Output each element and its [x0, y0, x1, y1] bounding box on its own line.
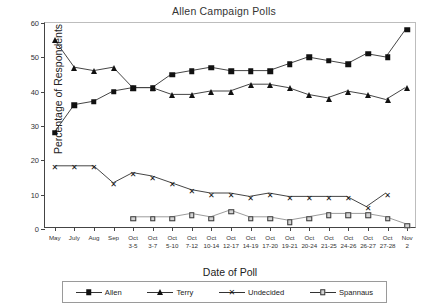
data-point-allen: [189, 68, 195, 74]
data-point-terry: [287, 85, 293, 91]
data-point-allen: [91, 99, 97, 105]
data-point-undecided: ✕: [208, 191, 215, 198]
data-point-allen: [365, 51, 371, 57]
y-tick-mark: [41, 229, 45, 230]
x-tick-mark: [329, 227, 330, 231]
y-tick-label: 60: [31, 19, 39, 28]
data-point-undecided: ✕: [384, 191, 391, 198]
data-point-spannaus: [248, 216, 254, 222]
data-point-terry: [52, 37, 58, 43]
data-point-allen: [267, 68, 273, 74]
data-point-terry: [71, 65, 77, 71]
data-point-undecided: ✕: [188, 188, 195, 195]
data-point-undecided: ✕: [247, 195, 254, 202]
data-point-spannaus: [346, 213, 352, 219]
y-tick-label: 30: [31, 122, 39, 131]
data-point-undecided: ✕: [228, 191, 235, 198]
y-tick-label: 50: [31, 53, 39, 62]
x-tick-mark: [388, 227, 389, 231]
data-point-undecided: ✕: [90, 164, 97, 171]
series-line-allen: [55, 30, 406, 132]
data-point-spannaus: [385, 216, 391, 222]
y-tick-label: 10: [31, 190, 39, 199]
data-point-spannaus: [365, 213, 371, 219]
y-tick-label: 20: [31, 156, 39, 165]
data-point-terry: [150, 85, 156, 91]
data-point-terry: [169, 92, 175, 98]
x-tick-mark: [290, 227, 291, 231]
data-point-undecided: ✕: [345, 195, 352, 202]
data-point-terry: [326, 96, 332, 102]
data-point-spannaus: [150, 216, 156, 222]
data-point-terry: [404, 85, 410, 91]
legend-label: Spannaus: [339, 288, 373, 297]
data-point-undecided: ✕: [71, 164, 78, 171]
legend-marker-filled-triangle-icon: [147, 287, 173, 297]
data-point-terry: [208, 89, 214, 95]
legend-item-terry[interactable]: Terry: [147, 287, 193, 297]
data-point-allen: [72, 103, 78, 109]
data-point-terry: [228, 89, 234, 95]
data-point-terry: [130, 85, 136, 91]
data-point-terry: [385, 97, 391, 103]
y-tick-label: 40: [31, 87, 39, 96]
data-point-allen: [228, 68, 234, 74]
data-point-terry: [111, 65, 117, 71]
data-point-terry: [365, 92, 371, 98]
data-point-undecided: ✕: [286, 195, 293, 202]
x-tick-mark: [211, 227, 212, 231]
data-point-spannaus: [267, 216, 273, 222]
data-point-terry: [306, 92, 312, 98]
chart-container: Allen Campaign Polls Percentage of Respo…: [0, 0, 448, 308]
legend-item-undecided[interactable]: ✕Undecided: [219, 287, 284, 297]
legend-item-allen[interactable]: Allen: [76, 287, 122, 297]
data-point-spannaus: [404, 223, 410, 229]
data-point-spannaus: [228, 209, 234, 215]
data-point-undecided: ✕: [110, 181, 117, 188]
data-point-allen: [326, 58, 332, 64]
data-point-undecided: ✕: [130, 171, 137, 178]
data-point-undecided: ✕: [306, 195, 313, 202]
data-point-spannaus: [287, 219, 293, 225]
data-point-allen: [346, 61, 352, 67]
legend-marker-filled-square-icon: [76, 287, 102, 297]
x-tick-mark: [192, 227, 193, 231]
data-point-allen: [287, 61, 293, 67]
data-point-allen: [307, 55, 313, 61]
data-point-undecided: ✕: [149, 174, 156, 181]
x-tick-mark: [231, 227, 232, 231]
legend-label: Terry: [176, 288, 193, 297]
legend-item-spannaus[interactable]: Spannaus: [310, 287, 373, 297]
y-tick-label: 0: [35, 225, 39, 234]
data-point-spannaus: [307, 216, 313, 222]
data-point-terry: [248, 82, 254, 88]
x-tick-mark: [94, 227, 95, 231]
data-point-undecided: ✕: [169, 181, 176, 188]
x-tick-mark: [133, 227, 134, 231]
data-point-terry: [267, 82, 273, 88]
data-point-terry: [91, 68, 97, 74]
legend-marker-open-square-icon: [310, 287, 336, 297]
data-point-allen: [404, 27, 410, 33]
x-tick-mark: [172, 227, 173, 231]
x-tick-mark: [270, 227, 271, 231]
plot-area: Percentage of Respondents 0102030405060 …: [44, 22, 416, 228]
chart-title: Allen Campaign Polls: [0, 5, 448, 17]
data-point-allen: [111, 89, 117, 95]
data-point-terry: [189, 92, 195, 98]
x-tick-mark: [309, 227, 310, 231]
data-point-allen: [209, 65, 215, 71]
data-point-spannaus: [170, 216, 176, 222]
x-tick-mark: [251, 227, 252, 231]
data-point-undecided: ✕: [51, 164, 58, 171]
data-point-allen: [248, 68, 254, 74]
data-point-undecided: ✕: [267, 191, 274, 198]
data-point-allen: [385, 55, 391, 61]
x-tick-mark: [114, 227, 115, 231]
x-tick-mark: [348, 227, 349, 231]
data-point-undecided: ✕: [365, 205, 372, 212]
x-tick-mark: [153, 227, 154, 231]
data-point-allen: [170, 72, 176, 78]
x-tick-mark: [55, 227, 56, 231]
data-point-spannaus: [326, 213, 332, 219]
